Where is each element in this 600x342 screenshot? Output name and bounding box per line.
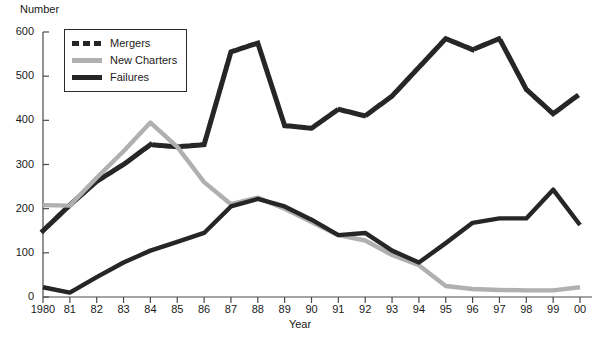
y-tick-label: 600	[0, 25, 34, 37]
y-tick-label: 100	[0, 246, 34, 258]
legend-label-failures: Failures	[110, 72, 149, 83]
y-tick-label: 300	[0, 158, 34, 170]
legend-item-mergers: Mergers	[72, 35, 177, 52]
legend-item-failures: Failures	[72, 69, 177, 86]
y-tick-label: 0	[0, 290, 34, 302]
legend-label-new-charters: New Charters	[110, 55, 177, 66]
legend-swatch-gray-line-icon	[72, 55, 102, 66]
series-line-failures	[43, 190, 580, 293]
x-tick-label: 00	[560, 303, 600, 315]
y-tick-label: 400	[0, 113, 34, 125]
chart-legend: Mergers New Charters Failures	[64, 29, 187, 92]
series-line-new-charters	[43, 123, 580, 291]
chart-container: Number 010020030040050060019808182838485…	[0, 0, 600, 342]
y-axis-ticks	[43, 32, 49, 297]
legend-label-mergers: Mergers	[110, 38, 150, 49]
legend-swatch-black-line-icon	[72, 72, 102, 83]
legend-item-new-charters: New Charters	[72, 52, 177, 69]
x-axis-title: Year	[0, 318, 600, 330]
y-tick-label: 500	[0, 69, 34, 81]
y-tick-label: 200	[0, 202, 34, 214]
legend-swatch-dotted-icon	[72, 38, 102, 49]
